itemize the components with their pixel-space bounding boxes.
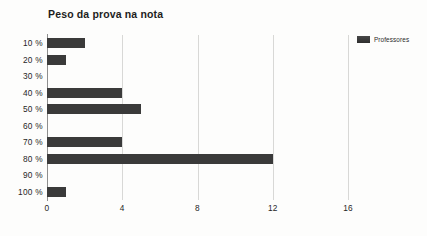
bar-40pct <box>47 88 122 98</box>
bar-row <box>47 134 348 151</box>
legend-label-professores: Professores <box>374 36 409 43</box>
y-tick-label: 10 % <box>1 38 43 48</box>
x-axis-tick-labels: 0481216 <box>0 203 427 217</box>
bar-80pct <box>47 154 273 164</box>
bar-row <box>47 167 348 184</box>
x-tick-label: 12 <box>258 203 288 213</box>
gridline-x-16 <box>348 35 349 200</box>
bar-row <box>47 68 348 85</box>
bar-row <box>47 151 348 168</box>
bar-100pct <box>47 187 66 197</box>
plot-area <box>47 35 348 200</box>
bar-row <box>47 101 348 118</box>
x-tick-label: 8 <box>183 203 213 213</box>
bar-70pct <box>47 137 122 147</box>
bar-row <box>47 52 348 69</box>
chart-legend: Professores <box>357 36 409 43</box>
y-tick-label: 90 % <box>1 170 43 180</box>
y-tick-label: 40 % <box>1 88 43 98</box>
bar-20pct <box>47 55 66 65</box>
x-tick-label: 0 <box>32 203 62 213</box>
bar-row <box>47 35 348 52</box>
bar-row <box>47 118 348 135</box>
bar-row <box>47 85 348 102</box>
bar-50pct <box>47 104 141 114</box>
y-tick-label: 80 % <box>1 154 43 164</box>
legend-swatch-icon <box>357 36 370 43</box>
y-tick-label: 30 % <box>1 71 43 81</box>
x-tick-label: 4 <box>107 203 137 213</box>
bar-row <box>47 184 348 201</box>
bar-chart: Peso da prova na nota 10 %20 %30 %40 %50… <box>0 0 427 236</box>
bar-10pct <box>47 38 85 48</box>
y-axis-tick-labels: 10 %20 %30 %40 %50 %60 %70 %80 %90 %100 … <box>0 35 43 200</box>
chart-title: Peso da prova na nota <box>48 8 163 20</box>
y-tick-label: 70 % <box>1 137 43 147</box>
y-tick-label: 100 % <box>1 187 43 197</box>
x-tick-label: 16 <box>333 203 363 213</box>
y-tick-label: 50 % <box>1 104 43 114</box>
y-tick-label: 60 % <box>1 121 43 131</box>
y-tick-label: 20 % <box>1 55 43 65</box>
